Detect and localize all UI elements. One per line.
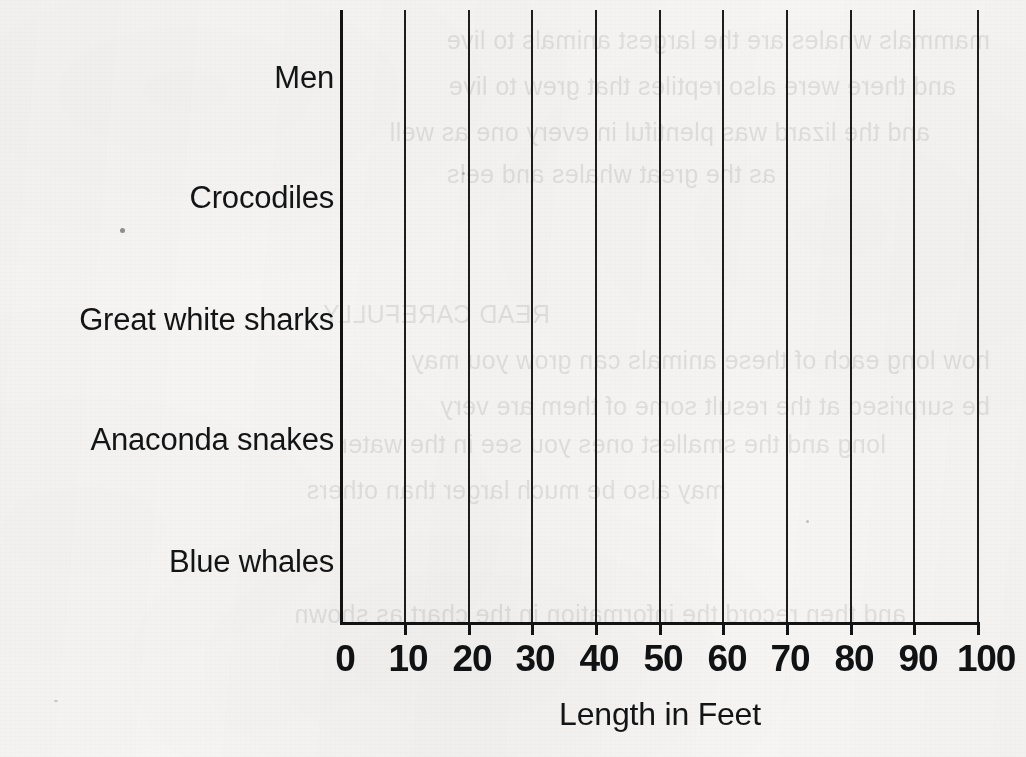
tick-mark-80 xyxy=(850,622,853,635)
x-tick-label-60: 60 xyxy=(708,640,747,677)
gridline-60 xyxy=(722,10,724,632)
x-tick-label-20: 20 xyxy=(453,640,492,677)
x-tick-label-90: 90 xyxy=(899,640,938,677)
category-label-great-white-sharks: Great white sharks xyxy=(0,304,334,335)
gridline-30 xyxy=(531,10,533,632)
category-label-men: Men xyxy=(0,62,334,93)
gridline-50 xyxy=(659,10,661,632)
x-tick-label-40: 40 xyxy=(580,640,619,677)
gridline-80 xyxy=(850,10,852,632)
tick-mark-30 xyxy=(531,622,534,635)
bar-chart: Men Crocodiles Great white sharks Anacon… xyxy=(0,0,1026,757)
gridline-100 xyxy=(977,10,979,632)
gridline-40 xyxy=(595,10,597,632)
tick-mark-10 xyxy=(404,622,407,635)
tick-mark-50 xyxy=(659,622,662,635)
x-tick-label-80: 80 xyxy=(835,640,874,677)
category-label-blue-whales: Blue whales xyxy=(0,546,334,577)
x-tick-label-10: 10 xyxy=(389,640,428,677)
gridline-90 xyxy=(913,10,915,632)
gridline-70 xyxy=(786,10,788,632)
scanned-chart-page: mammals whales are the largest animals t… xyxy=(0,0,1026,757)
category-label-crocodiles: Crocodiles xyxy=(0,182,334,213)
x-tick-label-0: 0 xyxy=(335,640,354,677)
tick-mark-40 xyxy=(595,622,598,635)
y-axis-line xyxy=(340,10,343,625)
x-tick-label-50: 50 xyxy=(644,640,683,677)
tick-mark-60 xyxy=(722,622,725,635)
x-tick-label-100: 100 xyxy=(957,640,1015,677)
x-tick-label-70: 70 xyxy=(771,640,810,677)
category-label-anaconda-snakes: Anaconda snakes xyxy=(0,424,334,455)
tick-mark-70 xyxy=(786,622,789,635)
tick-mark-20 xyxy=(468,622,471,635)
tick-mark-100 xyxy=(977,622,980,635)
x-tick-label-30: 30 xyxy=(516,640,555,677)
tick-mark-90 xyxy=(913,622,916,635)
gridline-20 xyxy=(468,10,470,632)
x-axis-title: Length in Feet xyxy=(559,698,761,730)
gridline-10 xyxy=(404,10,406,632)
